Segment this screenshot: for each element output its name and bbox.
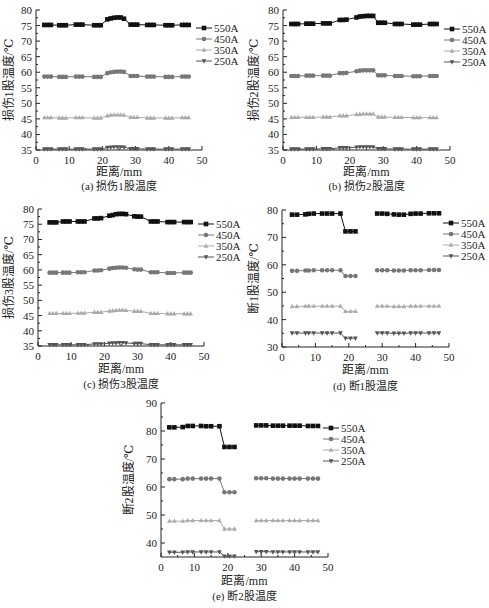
data-point — [271, 423, 276, 428]
y-tick-label: 35 — [21, 144, 33, 156]
data-point — [327, 73, 332, 78]
x-tick-label: 0 — [279, 351, 285, 363]
data-point — [190, 424, 195, 429]
data-point — [437, 268, 442, 273]
data-point — [287, 518, 292, 522]
data-point — [418, 268, 423, 273]
data-point — [49, 74, 54, 79]
data-point — [172, 220, 177, 225]
data-point — [434, 74, 439, 79]
y-tick-label: 70 — [23, 233, 35, 245]
data-point — [155, 270, 160, 275]
data-point — [380, 211, 385, 216]
data-point — [338, 268, 343, 273]
data-point — [155, 311, 160, 315]
data-point — [297, 423, 302, 428]
data-point — [292, 476, 297, 481]
y-tick-label: 50 — [268, 97, 280, 109]
x-axis-label: 距离/mm — [96, 164, 143, 179]
y-tick-label: 55 — [268, 82, 280, 94]
series-450A — [289, 68, 439, 79]
y-axis-label: 断2股温度/℃ — [121, 445, 136, 516]
legend-marker — [329, 426, 334, 431]
data-point — [402, 268, 407, 273]
x-tick-label: 10 — [189, 561, 201, 573]
data-point — [427, 211, 432, 216]
y-tick-label: 65 — [268, 51, 280, 63]
x-tick-label: 40 — [163, 154, 175, 166]
x-tick-label: 20 — [99, 350, 111, 362]
x-tick-label: 10 — [64, 154, 76, 166]
data-point — [135, 115, 140, 119]
data-point — [281, 423, 286, 428]
y-axis-label: 损伤2股温度/℃ — [246, 39, 261, 122]
data-point — [385, 268, 390, 273]
data-point — [186, 115, 191, 119]
data-point — [180, 477, 185, 482]
series-350A — [290, 303, 442, 313]
x-tick-label: 10 — [310, 351, 322, 363]
x-tick-label: 0 — [33, 154, 39, 166]
data-point — [98, 23, 103, 28]
data-point — [290, 269, 295, 274]
y-tick-label: 80 — [23, 203, 35, 215]
data-point — [180, 425, 185, 430]
series-250A — [47, 341, 193, 348]
series-350A — [289, 111, 439, 119]
data-point — [209, 476, 214, 481]
data-point — [311, 476, 316, 481]
data-point — [232, 445, 237, 450]
data-point — [49, 115, 54, 119]
data-point — [287, 476, 292, 481]
data-point — [311, 518, 316, 522]
y-tick-label: 55 — [21, 82, 33, 94]
series-550A — [290, 211, 442, 234]
y-tick-label: 40 — [268, 128, 280, 140]
data-point — [254, 518, 259, 522]
y-tick-label: 70 — [267, 231, 279, 243]
data-point — [281, 476, 286, 481]
x-tick-label: 30 — [256, 561, 268, 573]
data-point — [80, 115, 85, 119]
data-point — [320, 211, 325, 216]
data-point — [287, 423, 292, 428]
y-tick-label: 45 — [23, 310, 35, 322]
data-point — [222, 445, 227, 450]
data-point — [122, 70, 127, 75]
x-axis-label: 距离/mm — [98, 361, 145, 376]
data-point — [380, 268, 385, 273]
chart-caption: (c) 损伤3股温度 — [83, 377, 158, 391]
chart-caption: (b) 损伤2股温度 — [328, 179, 404, 193]
y-tick-label: 80 — [267, 204, 279, 216]
data-point — [434, 115, 439, 119]
data-point — [325, 268, 330, 273]
y-tick-label: 75 — [268, 20, 280, 32]
legend-marker — [449, 232, 454, 237]
data-point — [170, 75, 175, 80]
data-point — [397, 268, 402, 273]
series-line — [169, 426, 234, 447]
x-tick-label: 20 — [222, 561, 234, 573]
x-tick-label: 0 — [35, 350, 41, 362]
data-point — [392, 268, 397, 273]
data-point — [185, 518, 190, 522]
data-point — [316, 518, 321, 522]
x-axis-label: 距离/mm — [343, 164, 390, 179]
data-point — [383, 114, 388, 118]
data-point — [311, 73, 316, 78]
y-tick-label: 75 — [23, 218, 35, 230]
data-point — [418, 74, 423, 79]
data-point — [199, 424, 204, 429]
data-point — [82, 219, 87, 224]
x-tick-label: 50 — [323, 561, 335, 573]
data-point — [434, 22, 439, 27]
data-point — [413, 211, 418, 216]
data-point — [259, 476, 264, 481]
data-point — [306, 212, 311, 217]
y-tick-label: 40 — [23, 325, 35, 337]
legend-item: 250A — [198, 251, 241, 263]
legend-marker — [449, 221, 454, 226]
data-point — [306, 424, 311, 429]
data-point — [82, 270, 87, 275]
data-point — [217, 476, 222, 481]
